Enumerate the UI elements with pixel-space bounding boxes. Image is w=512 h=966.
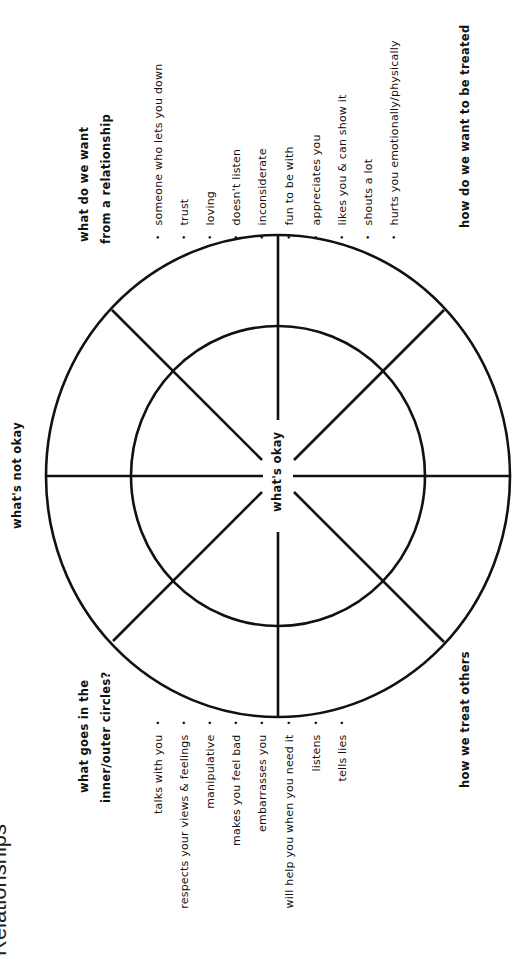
list-item: shouts a lot — [362, 159, 375, 240]
list-item: fun to be with — [283, 146, 296, 240]
list-item: embarrasses you — [256, 720, 269, 832]
list-item: listens — [310, 720, 323, 772]
worksheet-page: Relationships what's okay what's not oka… — [0, 0, 512, 966]
outer-label: what's not okay — [10, 422, 24, 529]
how-treated-label: how do we want to be treated — [458, 25, 472, 228]
list-item: talks with you — [152, 720, 165, 814]
list-item: manipulative — [204, 720, 217, 809]
list-item: hurts you emotionally/physically — [388, 40, 401, 240]
what-want-label-line2: from a relationship — [99, 114, 113, 244]
what-want-label-line1: what do we want — [77, 127, 91, 242]
list-item: appreciates you — [310, 134, 323, 240]
list-item: loving — [204, 191, 217, 240]
list-item: makes you feel bad — [230, 720, 243, 846]
list-item: will help you when you need it — [283, 720, 296, 908]
list-item: trust — [178, 199, 191, 240]
list-item: likes you & can show it — [336, 94, 349, 240]
list-item: inconsiderate — [256, 148, 269, 240]
list-item: someone who lets you down — [152, 64, 165, 240]
list-item: respects your views & feelings — [178, 720, 191, 909]
center-label: what's okay — [270, 432, 284, 512]
how-treat-others-label: how we treat others — [458, 651, 472, 788]
what-goes-label-line1: what goes in the — [77, 680, 91, 793]
list-item: doesn't listen — [230, 149, 243, 240]
what-goes-label-line2: inner/outer circles? — [99, 671, 113, 803]
list-item: tells lies — [336, 720, 349, 782]
